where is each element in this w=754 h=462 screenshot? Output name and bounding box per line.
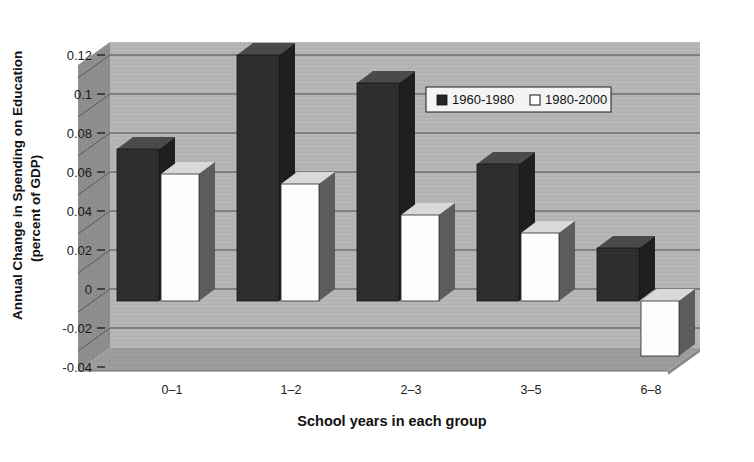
legend-label: 1980-2000 — [545, 92, 607, 107]
bar-chart-svg: 0.12 0.1 0.08 0.06 0.04 0.02 0 -0.02 -0.… — [0, 0, 754, 462]
x-tick-label: 2–3 — [401, 383, 422, 397]
y-tick-label: 0.06 — [67, 165, 92, 180]
x-axis-title: School years in each group — [297, 413, 486, 429]
bar-1980-2000 — [641, 289, 695, 356]
bar-1980-2000 — [521, 221, 575, 301]
y-tick-label: -0.04 — [62, 360, 92, 375]
y-axis-title-line2: (percent of GDP) — [28, 155, 43, 262]
plot-floor — [78, 348, 700, 371]
y-tick-label: 0.08 — [67, 126, 92, 141]
bar-1960-1980 — [597, 236, 655, 301]
y-tick-label: 0.12 — [67, 48, 92, 63]
bar-1980-2000 — [281, 172, 335, 301]
y-tick-label: 0.02 — [67, 243, 92, 258]
y-tick-label: 0.1 — [74, 87, 92, 102]
x-tick-label: 6–8 — [641, 383, 662, 397]
filled-square-icon — [437, 95, 447, 105]
y-tick-label: 0.04 — [67, 204, 92, 219]
x-tick-label: 0–1 — [162, 383, 183, 397]
y-tick-label: 0 — [85, 282, 92, 297]
bar-1980-2000 — [161, 162, 215, 301]
chart-figure: 0.12 0.1 0.08 0.06 0.04 0.02 0 -0.02 -0.… — [0, 0, 754, 462]
y-axis-title-line1: Annual Change in Spending on Education — [10, 51, 25, 320]
legend: 1960-1980 1980-2000 — [426, 87, 611, 112]
open-square-icon — [530, 95, 540, 105]
x-tick-label: 3–5 — [521, 383, 542, 397]
bar-1980-2000 — [401, 203, 455, 301]
legend-label: 1960-1980 — [452, 92, 514, 107]
x-tick-label: 1–2 — [281, 383, 302, 397]
y-tick-label: -0.02 — [62, 321, 92, 336]
